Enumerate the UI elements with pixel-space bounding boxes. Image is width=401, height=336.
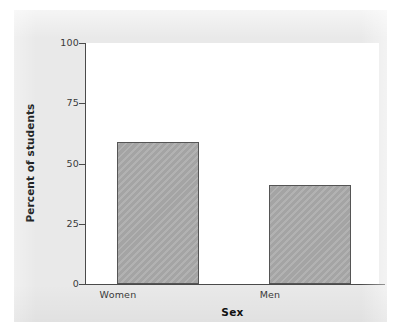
y-tick-label-25: 25 [53,218,79,229]
x-axis-line [79,284,385,285]
x-axis-title: Sex [86,306,379,318]
figure-root: 100 75 50 25 0 Percent of students Women… [0,0,401,336]
y-tick-label-wrap-100: 100 [44,37,79,49]
y-tick-label-0: 0 [53,278,79,289]
y-tick-50 [79,164,86,165]
x-tick-label-men: Men [229,289,311,300]
y-tick-75 [79,103,86,104]
bar-women [117,142,199,284]
y-tick-25 [79,224,86,225]
y-tick-label-wrap-50: 50 [44,158,79,170]
x-tick-label-women: Women [77,289,159,300]
y-tick-100 [79,43,86,44]
plot-area [86,43,379,284]
y-tick-label-50: 50 [53,158,79,169]
y-axis-title: Percent of students [24,83,36,243]
y-tick-label-wrap-0: 0 [44,278,79,290]
bar-men [269,185,351,284]
figure-canvas: 100 75 50 25 0 Percent of students Women… [14,10,387,322]
y-tick-label-100: 100 [53,37,79,48]
y-tick-label-75: 75 [53,97,79,108]
y-tick-label-wrap-25: 25 [44,218,79,230]
y-tick-label-wrap-75: 75 [44,97,79,109]
